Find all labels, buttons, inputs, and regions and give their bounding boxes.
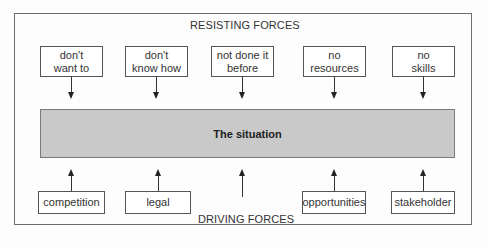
- resisting-force-dont-want-to: don't want to: [40, 46, 103, 77]
- resisting-force-dont-know-how: don't know how: [125, 46, 188, 77]
- driving-force-competition: competition: [38, 191, 105, 214]
- driving-force-stakeholder: stakeholder: [391, 191, 455, 214]
- driving-force-opportunities: opportunities: [302, 191, 366, 214]
- resisting-forces-title: RESISTING FORCES: [190, 19, 300, 31]
- resisting-force-not-done-before: not done it before: [211, 46, 274, 77]
- driving-forces-title: DRIVING FORCES: [198, 213, 294, 225]
- driving-force-legal: legal: [125, 191, 191, 214]
- situation-box: The situation: [40, 109, 455, 158]
- resisting-force-no-resources: no resources: [303, 46, 366, 77]
- resisting-force-no-skills: no skills: [392, 46, 455, 77]
